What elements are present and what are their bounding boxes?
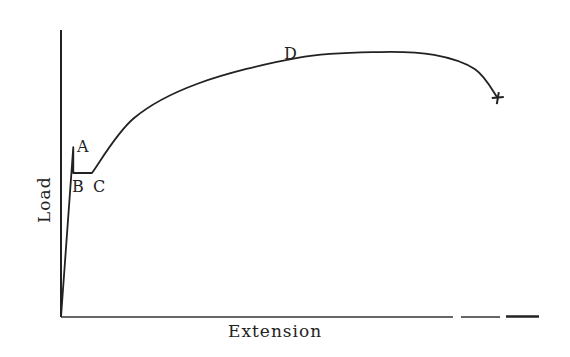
fracture-cross-marker <box>492 92 504 104</box>
annotation-D: D <box>284 44 297 63</box>
annotation-A: A <box>76 137 89 156</box>
axes <box>61 30 539 317</box>
annotation-C: C <box>93 177 105 196</box>
load-extension-curve <box>61 52 498 317</box>
load-extension-diagram: A B C D Extension Load <box>0 0 570 357</box>
y-axis-label: Load <box>34 176 54 223</box>
x-axis-label: Extension <box>228 321 322 341</box>
annotation-B: B <box>72 177 84 196</box>
cross-vertical-stroke <box>497 92 499 104</box>
